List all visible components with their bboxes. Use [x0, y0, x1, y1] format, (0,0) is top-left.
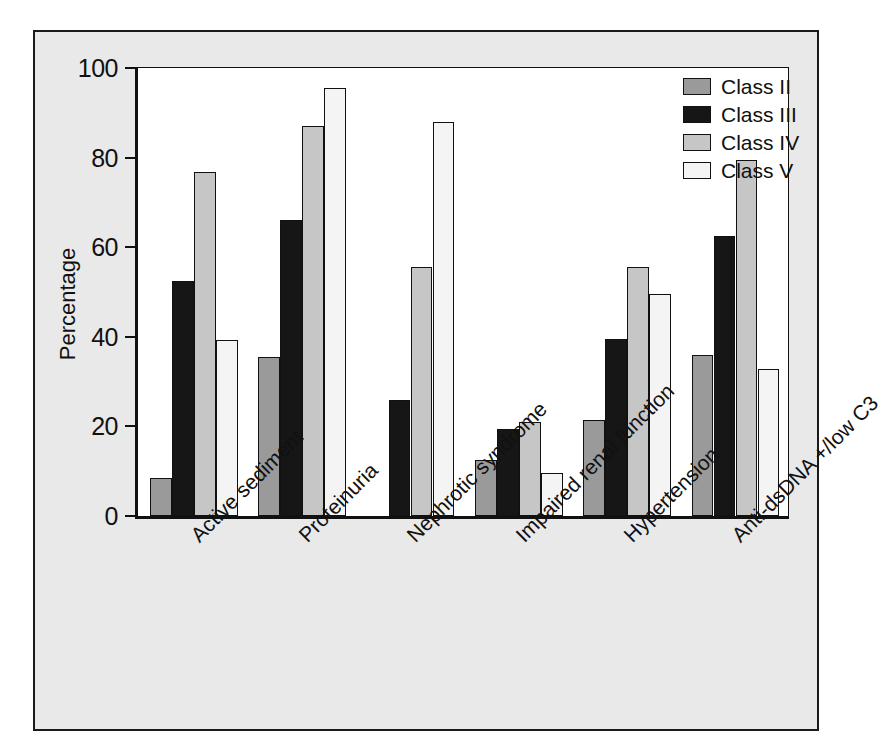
y-axis-tick-mark [125, 246, 138, 248]
bar [433, 122, 455, 516]
bar [389, 400, 411, 516]
y-axis-tick: 100 [78, 67, 138, 69]
bar [627, 267, 649, 516]
legend-label: Class IV [721, 132, 799, 153]
bar [302, 126, 324, 516]
bar-group [463, 68, 571, 516]
legend-label: Class II [721, 76, 791, 97]
legend-swatch-icon [683, 78, 711, 95]
bar [692, 355, 714, 516]
chart-legend: Class IIClass IIIClass IVClass V [683, 76, 799, 181]
y-axis-tick-mark [125, 515, 138, 517]
bar-group [355, 68, 463, 516]
y-axis-tick-mark [125, 67, 138, 69]
bar [714, 236, 736, 516]
bar [258, 357, 280, 516]
legend-item: Class III [683, 104, 799, 125]
legend-label: Class III [721, 104, 797, 125]
y-axis-tick: 40 [91, 336, 138, 338]
y-axis-label: Percentage [55, 248, 81, 361]
bar [172, 281, 194, 516]
plot-area: 020406080100 Active sedimentProteinuriaN… [135, 67, 789, 519]
legend-swatch-icon [683, 162, 711, 179]
legend-swatch-icon [683, 134, 711, 151]
y-axis-tick: 80 [91, 157, 138, 159]
legend-label: Class V [721, 160, 793, 181]
bar [194, 172, 216, 516]
y-axis-tick-mark [125, 157, 138, 159]
y-axis-tick-mark [125, 425, 138, 427]
bar [736, 160, 758, 516]
y-axis-tick: 60 [91, 246, 138, 248]
bar-group [138, 68, 246, 516]
bar [150, 478, 172, 516]
legend-item: Class II [683, 76, 799, 97]
legend-item: Class IV [683, 132, 799, 153]
legend-swatch-icon [683, 106, 711, 123]
bar [280, 220, 302, 516]
y-axis-tick: 20 [91, 425, 138, 427]
bar [411, 267, 433, 516]
legend-item: Class V [683, 160, 799, 181]
y-axis-tick-mark [125, 336, 138, 338]
y-axis-tick: 0 [105, 515, 138, 517]
bar [324, 88, 346, 516]
figure-panel: Percentage 020406080100 Active sedimentP… [33, 30, 819, 731]
